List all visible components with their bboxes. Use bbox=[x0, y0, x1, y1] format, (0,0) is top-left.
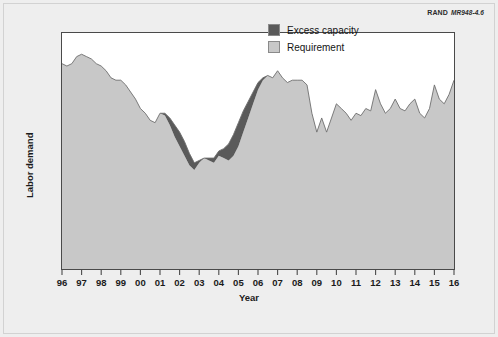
x-tick-label: 14 bbox=[410, 277, 421, 288]
x-tick-label: 05 bbox=[233, 277, 244, 288]
legend-swatch-excess-capacity bbox=[268, 24, 280, 36]
x-tick-label: 11 bbox=[351, 277, 361, 288]
area-chart-svg bbox=[62, 33, 454, 269]
x-tick-label: 99 bbox=[116, 277, 127, 288]
chart-legend: Excess capacity Requirement bbox=[268, 24, 359, 53]
plot-area bbox=[61, 32, 455, 270]
legend-label-requirement: Requirement bbox=[287, 42, 344, 53]
legend-label-excess-capacity: Excess capacity bbox=[287, 25, 359, 36]
x-axis-tick-labels: 9697989900010203040506070809101112131415… bbox=[61, 277, 455, 291]
plot-frame bbox=[61, 32, 455, 270]
x-tick-label: 02 bbox=[174, 277, 185, 288]
legend-swatch-requirement bbox=[268, 41, 280, 53]
x-tick-label: 10 bbox=[331, 277, 342, 288]
x-tick-label: 96 bbox=[57, 277, 68, 288]
x-tick-label: 98 bbox=[96, 277, 107, 288]
legend-item-excess-capacity: Excess capacity bbox=[268, 24, 359, 36]
x-tick-label: 09 bbox=[312, 277, 323, 288]
figure-number-label: MR948-4.6 bbox=[451, 9, 484, 16]
rand-org-label: RAND bbox=[427, 9, 448, 16]
x-tick-label: 12 bbox=[370, 277, 381, 288]
x-tick-label: 13 bbox=[390, 277, 401, 288]
x-tick-label: 07 bbox=[272, 277, 283, 288]
x-tick-label: 06 bbox=[253, 277, 264, 288]
figure-container: RANDMR948-4.6 Labor demand 9697989900010… bbox=[0, 0, 498, 337]
rand-credit-line: RANDMR948-4.6 bbox=[427, 9, 484, 16]
x-tick-label: 03 bbox=[194, 277, 205, 288]
x-tick-label: 00 bbox=[135, 277, 146, 288]
x-axis-ticks bbox=[61, 269, 455, 277]
y-axis-label: Labor demand bbox=[22, 100, 36, 230]
x-tick-label: 97 bbox=[76, 277, 87, 288]
x-tick-label: 15 bbox=[429, 277, 440, 288]
x-tick-label: 16 bbox=[449, 277, 460, 288]
x-tick-label: 01 bbox=[155, 277, 166, 288]
x-axis-label: Year bbox=[0, 292, 498, 303]
legend-item-requirement: Requirement bbox=[268, 41, 359, 53]
x-tick-label: 04 bbox=[214, 277, 225, 288]
x-tick-label: 08 bbox=[292, 277, 303, 288]
